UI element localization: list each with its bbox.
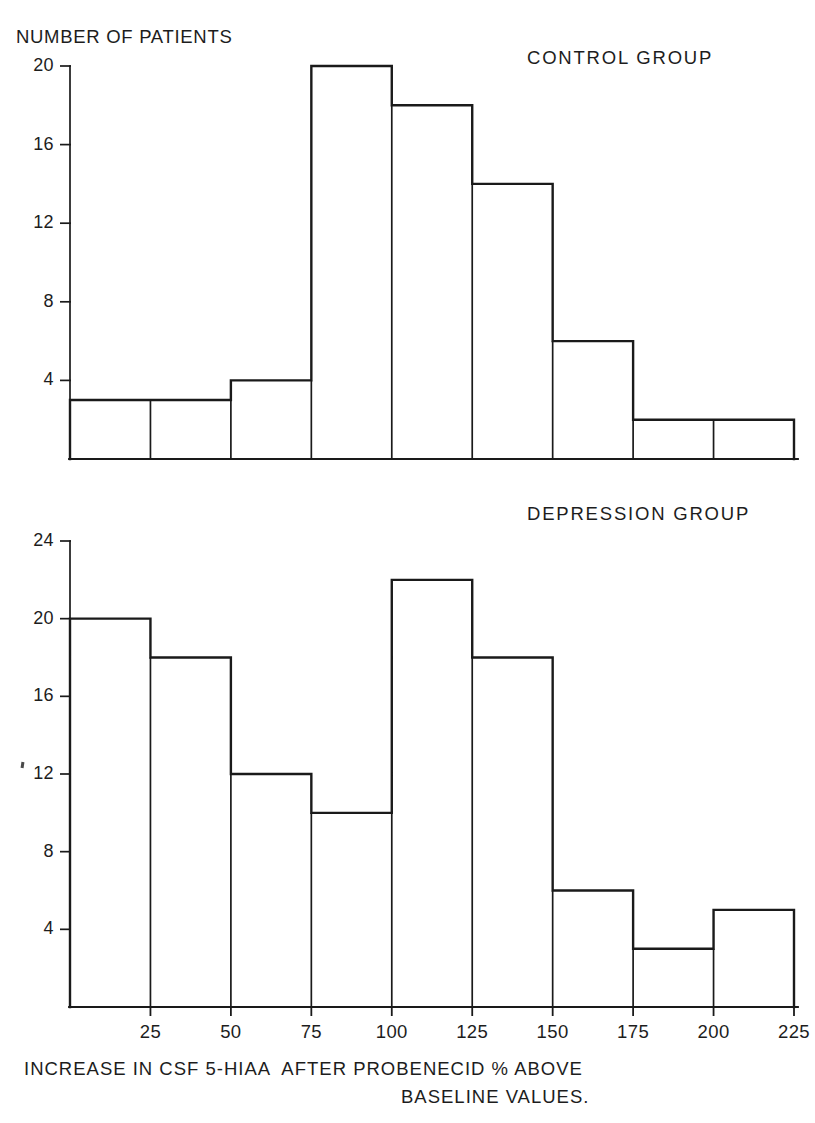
x-tick-label: 50 [199,1021,263,1043]
depression-group-title: DEPRESSION GROUP [527,503,750,525]
y-tick-label: 16 [10,685,54,706]
chart-svg [0,0,815,1123]
y-axis-title: NUMBER OF PATIENTS [16,26,232,48]
x-tick-label: 150 [521,1021,585,1043]
x-tick-label: 225 [762,1021,815,1043]
control-group-plot [60,66,798,459]
histogram-figure: NUMBER OF PATIENTS CONTROL GROUP DEPRESS… [0,0,815,1123]
control-group-title: CONTROL GROUP [527,47,713,69]
y-tick-label: 12 [10,763,54,784]
y-tick-label: 8 [10,291,54,312]
x-tick-label: 125 [440,1021,504,1043]
x-tick-label: 175 [601,1021,665,1043]
x-tick-label: 100 [360,1021,424,1043]
x-tick-label: 200 [682,1021,746,1043]
histogram-outline [70,66,794,459]
histogram-outline [70,580,794,1007]
depression-group-plot [60,541,798,1016]
x-axis-title-line1: INCREASE IN CSF 5-HIAA AFTER PROBENECID … [24,1058,583,1080]
y-tick-label: 16 [10,134,54,155]
x-tick-label: 25 [118,1021,182,1043]
x-axis-title-line2: BASELINE VALUES. [401,1086,589,1108]
y-tick-label: 8 [10,841,54,862]
x-tick-label: 75 [279,1021,343,1043]
y-tick-label: 4 [10,369,54,390]
y-tick-label: 4 [10,918,54,939]
y-tick-label: 24 [10,530,54,551]
y-tick-label: 20 [10,608,54,629]
y-tick-label: 12 [10,212,54,233]
y-tick-label: 20 [10,55,54,76]
